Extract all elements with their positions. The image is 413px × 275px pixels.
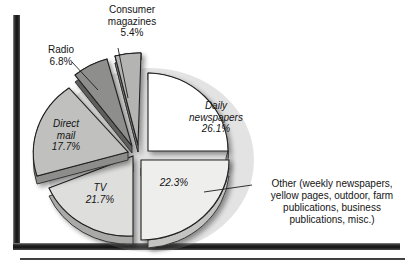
- label-daily-newspapers: Daily newspapers 26.1%: [180, 100, 252, 135]
- label-other-percent: 22.3%: [148, 177, 200, 189]
- pie-chart-figure: Consumer magazines 5.4% Radio 6.8% Daily…: [0, 0, 413, 275]
- label-consumer-magazines: Consumer magazines 5.4%: [84, 4, 180, 39]
- label-radio: Radio 6.8%: [30, 44, 92, 67]
- slice-other[interactable]: [141, 160, 229, 248]
- label-direct-mail: Direct mail 17.7%: [36, 118, 96, 153]
- label-other-callout: Other (weekly newspapers, yellow pages, …: [252, 178, 412, 226]
- label-tv: TV 21.7%: [72, 182, 128, 205]
